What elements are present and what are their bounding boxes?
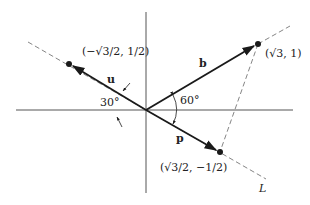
angle-30-arrow-top bbox=[123, 83, 130, 91]
vector-p-label: p bbox=[176, 132, 184, 145]
point-u-label: (−√3/2, 1/2) bbox=[82, 45, 149, 58]
line-L-label: L bbox=[258, 182, 266, 195]
vector-u-label: u bbox=[107, 73, 115, 86]
point-b bbox=[255, 41, 261, 47]
projection-line bbox=[220, 44, 258, 152]
diagram-canvas: (−√3/2, 1/2) u 30° b (√3, 1) 60° p (√3/2… bbox=[0, 0, 310, 205]
point-b-label: (√3, 1) bbox=[265, 47, 302, 60]
diagram-svg: (−√3/2, 1/2) u 30° b (√3, 1) 60° p (√3/2… bbox=[0, 0, 310, 205]
point-u bbox=[66, 61, 72, 67]
angle-30-arrow-bottom bbox=[117, 117, 122, 127]
point-p-label: (√3/2, −1/2) bbox=[160, 161, 227, 174]
point-p bbox=[217, 149, 223, 155]
angle-30-label: 30° bbox=[100, 96, 120, 109]
vector-b-label: b bbox=[199, 57, 207, 70]
b-extension bbox=[258, 26, 290, 44]
angle-60-label: 60° bbox=[180, 94, 200, 107]
